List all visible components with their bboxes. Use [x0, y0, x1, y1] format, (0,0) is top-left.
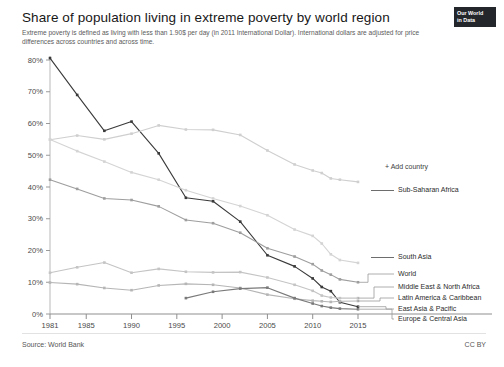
- legend-item-middle-east-north-africa[interactable]: Middle East & North Africa: [398, 283, 480, 291]
- svg-text:1990: 1990: [123, 321, 140, 330]
- chart-footer: Source: World Bank CC BY: [0, 333, 504, 367]
- series-line[interactable]: [185, 286, 360, 310]
- chart-subtitle: Extreme poverty is defined as living wit…: [22, 28, 442, 46]
- y-axis: 0%10%20%30%40%50%60%70%80%: [28, 56, 50, 319]
- svg-text:1995: 1995: [168, 321, 185, 330]
- owid-logo-icon: Our World in Data: [454, 7, 496, 27]
- svg-text:60%: 60%: [28, 119, 43, 128]
- add-country-button[interactable]: + Add country: [385, 163, 428, 170]
- source-label: Source: World Bank: [22, 341, 84, 348]
- svg-text:2000: 2000: [214, 321, 231, 330]
- legend-item-south-asia[interactable]: South Asia: [398, 253, 431, 261]
- svg-text:10%: 10%: [28, 278, 43, 287]
- series-line[interactable]: [49, 57, 360, 308]
- series-line[interactable]: [49, 281, 360, 303]
- svg-text:2005: 2005: [259, 321, 276, 330]
- series-line[interactable]: [49, 124, 360, 183]
- svg-text:50%: 50%: [28, 151, 43, 160]
- svg-text:80%: 80%: [28, 56, 43, 65]
- svg-text:2015: 2015: [350, 321, 367, 330]
- legend-item-europe-central-asia[interactable]: Europe & Central Asia: [398, 315, 467, 323]
- series-lines: [49, 57, 360, 311]
- series-line[interactable]: [49, 138, 360, 264]
- legend-dash-icon: [371, 190, 394, 191]
- license-label[interactable]: CC BY: [465, 341, 486, 348]
- legend-item-world[interactable]: World: [398, 270, 416, 278]
- footer-divider: [22, 333, 486, 334]
- svg-text:20%: 20%: [28, 246, 43, 255]
- chart-card: Share of population living in extreme po…: [0, 0, 504, 367]
- svg-text:40%: 40%: [28, 183, 43, 192]
- svg-text:30%: 30%: [28, 214, 43, 223]
- page-title: Share of population living in extreme po…: [22, 10, 447, 25]
- legend-item-latin-america-caribbean[interactable]: Latin America & Caribbean: [398, 294, 481, 302]
- legend-dash-icon: [371, 257, 394, 258]
- svg-text:2010: 2010: [304, 321, 321, 330]
- owid-logo-line1: Our World: [457, 10, 496, 17]
- legend-item-east-asia-pacific[interactable]: East Asia & Pacific: [398, 305, 456, 313]
- svg-text:70%: 70%: [28, 87, 43, 96]
- legend-item-sub-saharan-africa[interactable]: Sub-Saharan Africa: [398, 186, 459, 194]
- svg-text:1985: 1985: [78, 321, 95, 330]
- chart-header: Share of population living in extreme po…: [22, 10, 447, 46]
- series-line[interactable]: [49, 178, 360, 283]
- legend-leader-lines: [358, 274, 394, 319]
- owid-logo-line2: in Data: [457, 17, 496, 24]
- svg-text:0%: 0%: [32, 310, 43, 319]
- svg-text:1981: 1981: [42, 321, 59, 330]
